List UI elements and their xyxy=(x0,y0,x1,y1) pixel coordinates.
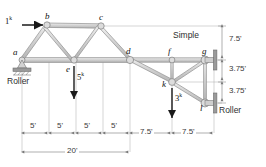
vertical-dimension-chain xyxy=(218,26,226,103)
node-label-f: f xyxy=(168,47,171,56)
node-label-k: k xyxy=(162,80,166,89)
load-5k-unit: k xyxy=(81,71,84,77)
load-3k-unit: k xyxy=(179,92,182,98)
node-label-b: b xyxy=(45,12,50,21)
load-label-3k: 3k xyxy=(175,93,182,102)
load-label-1k: 1k xyxy=(5,16,12,25)
truss-diagram-canvas xyxy=(0,0,266,167)
load-1k-unit: k xyxy=(9,15,12,21)
dim-label-v3: 3.75' xyxy=(229,87,246,95)
truss-diagram-figure: a b c d e f g k l 1k 5k 3k Roller Simple… xyxy=(0,0,266,167)
dim-label-v1: 7.5' xyxy=(229,35,242,43)
node-label-l: l xyxy=(200,104,203,113)
dim-label-overall: 20' xyxy=(65,147,79,155)
dim-label-h1: 5' xyxy=(30,122,36,130)
dim-label-h2: 5' xyxy=(57,122,63,130)
dim-label-h5: 7.5' xyxy=(139,128,154,136)
node-label-c: c xyxy=(99,13,103,22)
dim-label-v2: 3.75' xyxy=(229,65,246,73)
load-label-5k: 5k xyxy=(77,72,84,81)
node-label-d: d xyxy=(126,47,131,56)
support-label-simple-g: Simple xyxy=(173,31,199,40)
node-label-e: e xyxy=(66,65,70,74)
support-roller-l-icon xyxy=(205,93,217,113)
support-label-roller-l: Roller xyxy=(219,106,241,115)
dim-label-h3: 5' xyxy=(84,122,90,130)
node-label-g: g xyxy=(202,47,207,56)
dim-label-h4: 5' xyxy=(111,122,117,130)
dim-label-h6: 7.5' xyxy=(181,128,196,136)
node-label-a: a xyxy=(13,48,18,57)
support-label-roller-a: Roller xyxy=(7,77,29,86)
